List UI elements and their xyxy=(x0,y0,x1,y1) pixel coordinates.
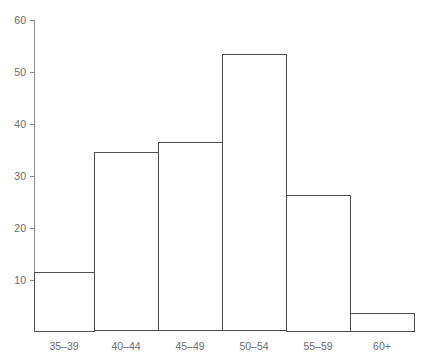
x-label-0: 35–39 xyxy=(49,340,78,352)
y-tick-label-50: 50 xyxy=(14,66,26,78)
y-tick-label-10: 10 xyxy=(14,274,26,286)
y-axis-ticks xyxy=(30,21,35,281)
y-axis-tick-labels: 60 50 40 30 20 10 xyxy=(14,14,26,286)
y-tick-label-20: 20 xyxy=(14,222,26,234)
y-tick-label-30: 30 xyxy=(14,170,26,182)
x-label-3: 50–54 xyxy=(239,340,268,352)
bar-5[interactable] xyxy=(351,314,415,332)
bar-3[interactable] xyxy=(223,55,287,331)
bar-0[interactable] xyxy=(35,273,95,332)
chart-canvas: 60 50 40 30 20 10 35–39 40–44 45–49 50–5… xyxy=(0,0,431,363)
x-label-4: 55–59 xyxy=(303,340,332,352)
y-tick-label-60: 60 xyxy=(14,14,26,26)
x-axis-category-labels: 35–39 40–44 45–49 50–54 55–59 60+ xyxy=(49,340,391,352)
x-label-2: 45–49 xyxy=(175,340,204,352)
bar-2[interactable] xyxy=(159,143,223,331)
x-label-5: 60+ xyxy=(373,340,391,352)
bar-4[interactable] xyxy=(287,196,351,332)
bar-1[interactable] xyxy=(95,153,159,331)
bars-group xyxy=(35,55,415,332)
x-label-1: 40–44 xyxy=(111,340,140,352)
histogram-chart: 60 50 40 30 20 10 35–39 40–44 45–49 50–5… xyxy=(0,0,431,363)
y-tick-label-40: 40 xyxy=(14,118,26,130)
